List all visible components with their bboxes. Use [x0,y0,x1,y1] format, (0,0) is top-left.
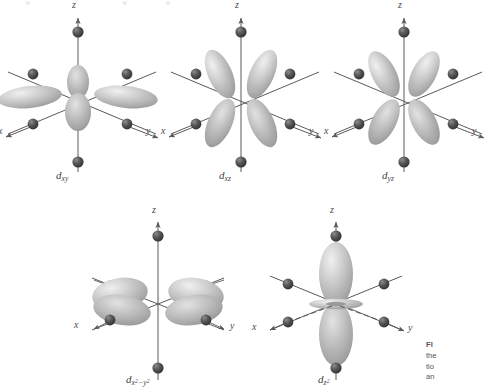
ligand-spheres-front [354,119,459,168]
orbital-label-dxy: dxy [56,170,69,183]
axis-front-stubs [332,126,484,138]
orbital-label-dz2: dz2 [318,374,330,387]
axis-label-z-dxy: z [72,0,76,10]
orbital-label-dyz: dyz [382,170,394,183]
ligand-spheres-rear [354,26,459,79]
axis-label-x-dx2y2: x [74,320,78,330]
orbital-label-dxz: dxz [219,170,231,183]
orbital-diagram-dyz: z x y dyz [320,4,488,184]
axis-label-y-dx2y2: y [230,321,234,331]
axis-label-z-dz2: z [330,205,334,215]
axis-label-z-dx2y2: z [152,205,156,215]
orbital-lobes-dz2 [309,242,363,366]
ligand-spheres-rear [191,26,296,79]
axis-label-y-dxy: y [146,126,150,136]
axis-front-stubs [169,126,321,138]
orbital-label-dx2y2: dx2−y2 [126,374,150,387]
caption-line-4: an [426,372,482,383]
axis-label-y-dz2: y [408,323,412,333]
axis-label-x-dxz: x [161,126,165,136]
orbital-diagram-dz2: z x y dz2 [248,210,424,390]
orbital-diagram-dxy: z x y dxy [0,4,162,184]
axis-label-y-dxz: y [309,126,313,136]
axis-label-y-dyz: y [472,126,476,136]
axis-label-x-dxy: x [0,126,2,136]
axis-label-z-dxz: z [235,0,239,10]
caption-line-3: tio [426,362,482,373]
orbital-lobes-dxy [0,65,159,131]
axis-label-x-dz2: x [252,322,256,332]
axis-label-x-dyz: x [324,126,328,136]
axis-lines [171,18,319,172]
orbital-label-subscript: x2−y2 [132,378,150,387]
caption-line-2: the [426,351,482,362]
axis-lines [334,18,482,172]
orbital-diagram-dx2y2: z x y dx2−y2 [72,210,244,390]
axis-label-z-dyz: z [398,0,402,10]
orbital-diagram-dxz: z x y dxz [157,4,325,184]
figure-caption: Fl the tio an [426,340,482,383]
caption-line-1: Fl [426,340,482,351]
